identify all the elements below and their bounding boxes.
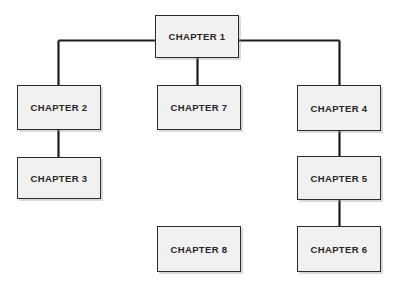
- node-chapter-1-label: CHAPTER 1: [169, 31, 226, 42]
- node-chapter-1[interactable]: CHAPTER 1: [155, 15, 239, 58]
- node-chapter-8-label: CHAPTER 8: [171, 244, 228, 255]
- node-chapter-5-label: CHAPTER 5: [311, 173, 368, 184]
- node-chapter-4-label: CHAPTER 4: [311, 103, 368, 114]
- chapter-dependency-diagram: CHAPTER 1 CHAPTER 2 CHAPTER 3 CHAPTER 7 …: [0, 0, 398, 288]
- node-chapter-2[interactable]: CHAPTER 2: [17, 85, 101, 130]
- node-chapter-3-label: CHAPTER 3: [31, 173, 88, 184]
- node-chapter-4[interactable]: CHAPTER 4: [297, 85, 381, 131]
- node-chapter-5[interactable]: CHAPTER 5: [297, 156, 381, 200]
- node-chapter-6[interactable]: CHAPTER 6: [297, 226, 381, 272]
- node-chapter-6-label: CHAPTER 6: [311, 244, 368, 255]
- node-chapter-3[interactable]: CHAPTER 3: [17, 157, 101, 199]
- node-chapter-7-label: CHAPTER 7: [171, 102, 228, 113]
- node-chapter-7[interactable]: CHAPTER 7: [157, 85, 241, 130]
- node-chapter-8[interactable]: CHAPTER 8: [157, 226, 241, 272]
- node-chapter-2-label: CHAPTER 2: [31, 102, 88, 113]
